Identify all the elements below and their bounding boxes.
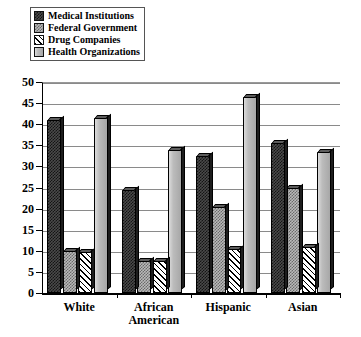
bar-0-0 [47,120,61,293]
bar-0-1 [63,251,77,293]
legend-item-drug-companies: Drug Companies [34,34,140,46]
bar-side-face [135,185,139,290]
legend-label-health-organizations: Health Organizations [48,47,140,57]
y-axis-label: 10 [8,245,34,257]
x-axis-tick [340,293,341,298]
legend-label-drug-companies: Drug Companies [48,35,121,45]
x-axis-label-asian: Asian [266,301,341,314]
y-axis-label: 30 [8,160,34,172]
gridline [43,104,340,105]
y-axis-label: 5 [8,266,34,278]
y-axis-label: 35 [8,139,34,151]
bar-3-0 [271,143,285,293]
legend-swatch-icon-drug-companies [34,35,44,45]
legend-swatch-icon-health-organizations [34,47,44,57]
gridline [43,146,340,147]
y-axis-label: 15 [8,224,34,236]
x-axis-label-white: White [42,301,117,314]
plot-area [42,82,340,293]
gridline [43,167,340,168]
y-axis-label: 0 [8,287,34,299]
bar-side-face [107,114,111,290]
bar-3-2 [302,247,316,293]
legend-swatch-icon-federal-government [34,23,44,33]
y-axis-label: 40 [8,118,34,130]
x-axis-label-line: Hispanic [191,301,266,314]
legend-item-federal-government: Federal Government [34,22,140,34]
legend-label-medical-institutions: Medical Institutions [48,11,134,21]
bar-side-face [181,145,185,290]
bar-side-face [330,147,334,290]
bar-side-face [166,257,170,290]
bar-side-face [240,244,244,290]
bar-side-face [225,202,229,290]
bar-2-3 [243,97,257,293]
x-axis-label-line: American [117,314,192,327]
x-axis-tick [266,293,267,298]
x-axis-tick [117,293,118,298]
bar-side-face [60,116,64,290]
bar-0-2 [78,252,92,293]
legend-swatch-icon-medical-institutions [34,11,44,21]
bar-side-face [150,257,154,290]
y-axis-label: 20 [8,203,34,215]
bar-side-face [256,92,260,290]
x-axis-tick [191,293,192,298]
bar-3-3 [317,152,331,293]
x-axis-label-hispanic: Hispanic [191,301,266,314]
gridline [43,125,340,126]
bar-1-3 [168,150,182,293]
bar-2-0 [196,156,210,293]
bar-2-2 [227,249,241,293]
gridline [43,83,340,84]
y-axis-label: 50 [8,76,34,88]
bar-1-1 [137,261,151,293]
x-axis-label-line: Asian [266,301,341,314]
x-axis-label-line: White [42,301,117,314]
y-axis-label: 45 [8,97,34,109]
y-axis-label: 25 [8,182,34,194]
legend-item-health-organizations: Health Organizations [34,46,140,58]
bar-1-0 [122,190,136,293]
bar-side-face [209,152,213,290]
bar-side-face [284,139,288,290]
bar-side-face [299,183,303,290]
bar-3-1 [286,188,300,294]
bar-chart: Medical Institutions Federal Government … [0,0,361,337]
bar-0-3 [94,118,108,293]
x-axis-label-african-american: AfricanAmerican [117,301,192,327]
bar-2-1 [212,207,226,294]
legend-item-medical-institutions: Medical Institutions [34,10,140,22]
bar-side-face [91,247,95,290]
bar-side-face [76,246,80,290]
bar-side-face [315,242,319,290]
bar-1-2 [153,261,167,293]
chart-legend: Medical Institutions Federal Government … [30,7,145,61]
legend-label-federal-government: Federal Government [48,23,137,33]
